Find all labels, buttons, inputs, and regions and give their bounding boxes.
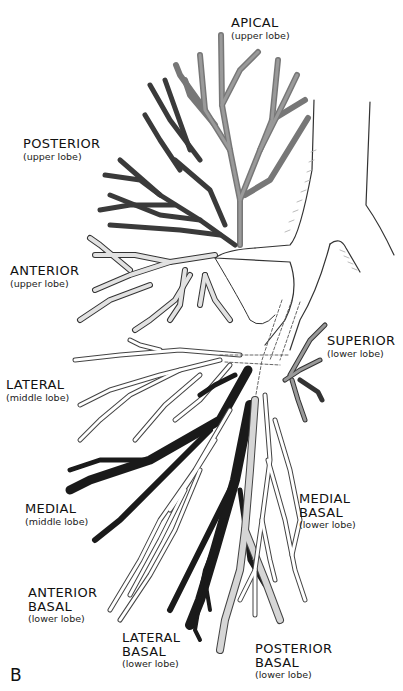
label-sub: (middle lobe) bbox=[6, 393, 69, 403]
label-sub: (lower lobe) bbox=[28, 614, 97, 624]
label-lateral-basal: LATERAL BASAL (lower lobe) bbox=[122, 631, 180, 669]
label-name: LATERAL bbox=[6, 378, 69, 392]
label-name2: BASAL bbox=[28, 600, 97, 614]
label-superior: SUPERIOR (lower lobe) bbox=[327, 334, 395, 359]
label-name2: BASAL bbox=[255, 656, 332, 670]
label-name: ANTERIOR bbox=[28, 586, 97, 600]
label-medial-basal: MEDIAL BASAL (lower lobe) bbox=[299, 492, 356, 530]
label-name2: BASAL bbox=[299, 506, 356, 520]
label-name: POSTERIOR bbox=[255, 642, 332, 656]
label-medial: MEDIAL (middle lobe) bbox=[25, 502, 88, 527]
label-sub: (upper lobe) bbox=[23, 152, 100, 162]
label-name: LATERAL bbox=[122, 631, 180, 645]
label-sub: (lower lobe) bbox=[255, 670, 332, 680]
label-posterior-basal: POSTERIOR BASAL (lower lobe) bbox=[255, 642, 332, 680]
label-sub: (upper lobe) bbox=[10, 279, 79, 289]
label-anterior-basal: ANTERIOR BASAL (lower lobe) bbox=[28, 586, 97, 624]
label-name: APICAL bbox=[231, 16, 290, 30]
panel-letter: B bbox=[10, 665, 22, 685]
label-sub: (lower lobe) bbox=[327, 349, 395, 359]
medial-basal-segment bbox=[220, 400, 280, 650]
trachea bbox=[255, 100, 394, 350]
label-apical: APICAL (upper lobe) bbox=[231, 16, 290, 41]
anterior-segment bbox=[80, 238, 230, 330]
label-name2: BASAL bbox=[122, 645, 180, 659]
label-name: ANTERIOR bbox=[10, 264, 79, 278]
label-posterior: POSTERIOR (upper lobe) bbox=[23, 137, 100, 162]
label-name: MEDIAL bbox=[25, 502, 88, 516]
label-name: POSTERIOR bbox=[23, 137, 100, 151]
label-name: SUPERIOR bbox=[327, 334, 395, 348]
superior-segment bbox=[285, 325, 325, 420]
label-lateral: LATERAL (middle lobe) bbox=[6, 378, 69, 403]
label-sub: (lower lobe) bbox=[299, 520, 356, 530]
label-name: MEDIAL bbox=[299, 492, 356, 506]
label-sub: (upper lobe) bbox=[231, 31, 290, 41]
label-anterior: ANTERIOR (upper lobe) bbox=[10, 264, 79, 289]
posterior-segment bbox=[100, 80, 235, 245]
label-sub: (lower lobe) bbox=[122, 659, 180, 669]
label-sub: (middle lobe) bbox=[25, 517, 88, 527]
